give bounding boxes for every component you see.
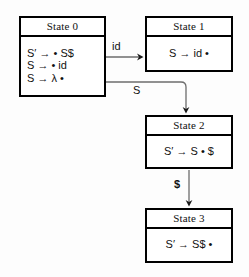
edge-state2-to-state3-arrowhead <box>186 200 193 207</box>
state-1-header: State 1 <box>147 18 231 37</box>
edge-state0-to-state1-arrowhead <box>137 54 144 61</box>
state-3-rules: S′ → S$ • <box>147 229 231 261</box>
edge-label-id: id <box>112 40 121 52</box>
state-3-rule-1: S′ → S$ • <box>153 238 225 251</box>
state-0-header: State 0 <box>21 18 104 37</box>
state-0-rules: S′ → • S$ S → • id S → λ • <box>21 37 104 95</box>
edge-label-dollar: $ <box>174 178 180 190</box>
edge-state0-to-state2-path <box>106 82 186 111</box>
state-3-header: State 3 <box>147 210 231 229</box>
state-0-rule-1: S′ → • S$ <box>27 47 98 60</box>
state-box-state-1[interactable]: State 1 S → id • <box>145 16 233 72</box>
state-box-state-3[interactable]: State 3 S′ → S$ • <box>145 208 233 263</box>
state-1-rule-1: S → id • <box>153 47 225 60</box>
state-1-rules: S → id • <box>147 37 231 70</box>
diagram-canvas: State 0 S′ → • S$ S → • id S → λ • State… <box>0 0 249 277</box>
state-0-rule-3: S → λ • <box>27 72 98 85</box>
state-2-rule-1: S′ → S • $ <box>153 145 225 158</box>
edge-label-s: S <box>133 84 140 96</box>
state-box-state-2[interactable]: State 2 S′ → S • $ <box>145 115 233 169</box>
state-box-state-0[interactable]: State 0 S′ → • S$ S → • id S → λ • <box>19 16 106 97</box>
state-0-rule-2: S → • id <box>27 59 98 72</box>
state-2-rules: S′ → S • $ <box>147 136 231 167</box>
edge-state0-to-state2-arrowhead <box>183 107 190 114</box>
state-2-header: State 2 <box>147 117 231 136</box>
